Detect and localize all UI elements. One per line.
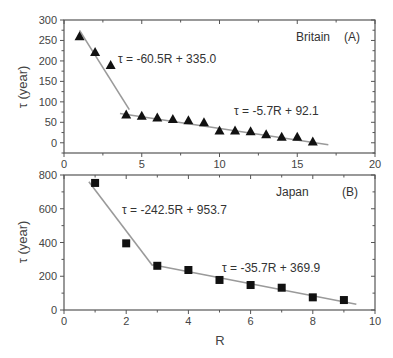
fit-line	[89, 182, 153, 266]
triangle-marker	[152, 112, 162, 121]
x-tick-label: 10	[369, 315, 381, 327]
triangle-marker	[261, 129, 271, 138]
fit-line	[80, 30, 130, 109]
y-tick-label: 600	[39, 203, 57, 215]
x-tick-label: 10	[213, 158, 225, 170]
x-tick-label: 15	[291, 158, 303, 170]
x-axis-title: R	[215, 333, 224, 348]
triangle-marker	[292, 132, 302, 141]
x-tick-label: 4	[185, 315, 191, 327]
square-marker	[247, 281, 255, 289]
triangle-marker	[246, 126, 256, 135]
triangle-marker	[199, 117, 209, 126]
square-marker	[340, 296, 348, 304]
y-tick-label: 400	[39, 237, 57, 249]
square-marker	[216, 276, 224, 284]
triangle-marker	[215, 125, 225, 134]
y-tick-label: 800	[39, 169, 57, 181]
square-marker	[184, 266, 192, 274]
chart-japan: 02468100200400600800	[39, 169, 381, 327]
triangle-marker	[106, 60, 116, 69]
panel-a-id-label: (A)	[344, 30, 360, 44]
triangle-marker	[183, 115, 193, 124]
triangle-marker	[277, 132, 287, 141]
x-tick-label: 20	[369, 158, 381, 170]
y-tick-label: 200	[39, 270, 57, 282]
y-tick-label: 250	[39, 34, 57, 46]
y-axis-title-japan: τ (year)	[15, 221, 30, 264]
y-tick-label: 150	[39, 75, 57, 87]
x-tick-label: 8	[310, 315, 316, 327]
square-marker	[309, 293, 317, 301]
triangle-marker	[168, 114, 178, 123]
panel-b-country-label: Japan	[276, 185, 309, 199]
plot-frame	[64, 175, 375, 310]
y-tick-label: 0	[51, 137, 57, 149]
y-tick-label: 0	[51, 304, 57, 316]
fit-label-japan-shallow: τ = -35.7R + 369.9	[222, 261, 320, 275]
panel-b-id-label: (B)	[342, 185, 358, 199]
x-tick-label: 0	[61, 158, 67, 170]
y-tick-label: 100	[39, 96, 57, 108]
figure: 05101520050100150200250300 0246810020040…	[0, 0, 393, 358]
x-tick-label: 6	[248, 315, 254, 327]
x-tick-label: 2	[123, 315, 129, 327]
fit-label-britain-shallow: τ = -5.7R + 92.1	[234, 104, 319, 118]
square-marker	[153, 262, 161, 270]
x-tick-label: 5	[139, 158, 145, 170]
square-marker	[91, 179, 99, 187]
square-marker	[122, 239, 130, 247]
y-tick-label: 50	[45, 116, 57, 128]
y-tick-label: 300	[39, 14, 57, 26]
y-tick-label: 200	[39, 55, 57, 67]
fit-label-britain-steep: τ = -60.5R + 335.0	[118, 52, 216, 66]
panel-a-country-label: Britain	[296, 30, 330, 44]
triangle-marker	[137, 111, 147, 120]
square-marker	[278, 284, 286, 292]
x-tick-label: 0	[61, 315, 67, 327]
y-axis-title-britain: τ (year)	[15, 66, 30, 109]
fit-label-japan-steep: τ = -242.5R + 953.7	[122, 203, 227, 217]
triangle-marker	[308, 137, 318, 146]
